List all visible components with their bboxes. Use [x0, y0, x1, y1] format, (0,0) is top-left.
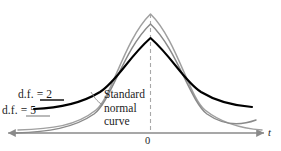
label-standard-line3: curve — [104, 115, 145, 129]
axis-tick-label-zero: 0 — [145, 135, 150, 147]
label-df5: d.f. = 5 — [2, 104, 36, 118]
t-distribution-figure: d.f. = 2 d.f. = 5 Standard normal curve … — [0, 0, 281, 151]
label-df2: d.f. = 2 — [18, 88, 52, 102]
label-standard-line1: Standard — [104, 88, 145, 102]
label-standard-line2: normal — [104, 102, 145, 116]
axis-label-t: t — [268, 127, 271, 139]
label-standard-normal-curve: Standard normal curve — [104, 88, 145, 129]
